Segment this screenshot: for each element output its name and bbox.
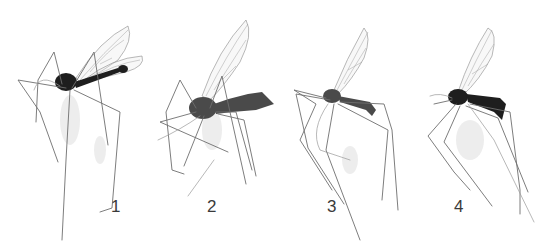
specimen-1-image — [18, 26, 143, 240]
specimen-2-image — [158, 20, 274, 196]
specimen-illustrations — [0, 0, 558, 242]
specimen-3-image — [294, 28, 398, 240]
panel-label-2: 2 — [207, 198, 216, 215]
specimen-figure: 1 2 3 4 — [0, 0, 558, 242]
panel-label-4: 4 — [454, 198, 463, 215]
panel-label-3: 3 — [327, 198, 336, 215]
panel-label-1: 1 — [111, 198, 120, 215]
specimen-4-image — [428, 28, 534, 222]
